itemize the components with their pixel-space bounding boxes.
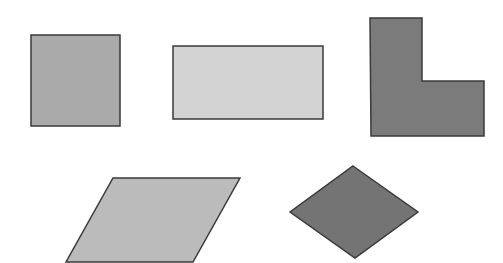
parallelogram-shape	[66, 178, 240, 262]
rhombus-shape	[290, 166, 418, 258]
rectangle-shape	[173, 46, 323, 119]
l-shape	[370, 18, 484, 136]
shapes-canvas	[0, 0, 503, 263]
square-shape	[31, 35, 120, 126]
